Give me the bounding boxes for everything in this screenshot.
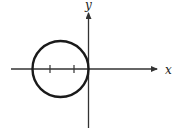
diagram-canvas: x y xyxy=(0,0,179,131)
x-axis-label: x xyxy=(165,63,172,77)
y-axis-label: y xyxy=(84,0,92,12)
